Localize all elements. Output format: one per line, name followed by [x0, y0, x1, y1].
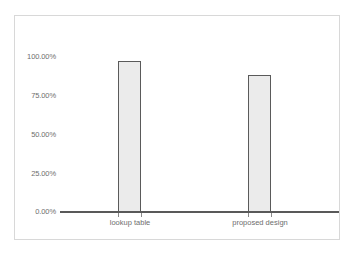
axis-tick-left-2 [248, 213, 249, 217]
y-tick-label-25: 25.00% [4, 169, 56, 178]
category-label-lookup-table: lookup table [110, 218, 150, 227]
y-axis-tick-labels: 100.00% 75.00% 50.00% 25.00% 0.00% [0, 0, 56, 253]
y-tick-label-50: 50.00% [4, 130, 56, 139]
axis-tick-left-1 [118, 213, 119, 217]
y-tick-label-100: 100.00% [4, 52, 56, 61]
axis-tick-right-2 [271, 213, 272, 217]
y-tick-label-0: 0.00% [4, 207, 56, 216]
plot-area [60, 56, 338, 212]
category-axis-line [60, 211, 339, 213]
category-label-proposed-design: proposed design [232, 218, 287, 227]
y-tick-label-75: 75.00% [4, 91, 56, 100]
axis-tick-right-1 [141, 213, 142, 217]
bar-proposed-design[interactable] [248, 75, 271, 212]
bar-lookup-table[interactable] [118, 61, 141, 212]
bar-chart-figure: 100.00% 75.00% 50.00% 25.00% 0.00% looku… [0, 0, 355, 253]
